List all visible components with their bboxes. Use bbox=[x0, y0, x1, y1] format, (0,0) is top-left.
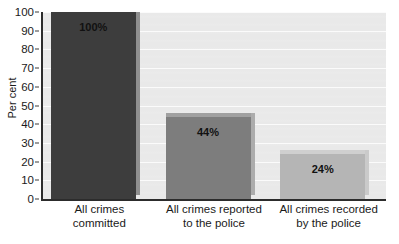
y-axis-tick-label: 10 bbox=[21, 174, 34, 186]
bar-body bbox=[280, 154, 365, 199]
y-axis-tick-label: 30 bbox=[21, 137, 34, 149]
y-axis-tick-mark bbox=[35, 105, 39, 106]
bar-shadow bbox=[365, 150, 369, 195]
y-axis-tick-label: 80 bbox=[21, 43, 34, 55]
bar-value-label: 100% bbox=[51, 21, 136, 33]
y-axis-tick-label: 60 bbox=[21, 81, 34, 93]
bar: 44% bbox=[166, 117, 251, 199]
y-axis-tick-mark bbox=[35, 49, 39, 50]
y-axis-tick-mark bbox=[35, 199, 39, 200]
x-axis-category-label-line: committed bbox=[42, 217, 157, 231]
y-axis-ticks: 1009080706050403020100 bbox=[0, 0, 42, 244]
bar-shadow bbox=[251, 113, 255, 195]
bar-value-label: 44% bbox=[166, 126, 251, 138]
y-axis-tick-label: 100 bbox=[15, 6, 34, 18]
bar: 24% bbox=[280, 154, 365, 199]
x-axis-category-label: All crimescommitted bbox=[42, 203, 157, 230]
bar-shadow bbox=[136, 12, 140, 195]
x-axis-category-label-line: All crimes reported bbox=[157, 203, 272, 217]
y-axis-tick-label: 70 bbox=[21, 62, 34, 74]
x-axis-category-labels: All crimescommittedAll crimes reportedto… bbox=[42, 203, 386, 241]
x-axis-category-label-line: to the police bbox=[157, 217, 272, 231]
y-axis-tick-label: 0 bbox=[28, 193, 34, 205]
y-axis-tick-label: 90 bbox=[21, 25, 34, 37]
x-axis-category-label-line: All crimes recorded bbox=[271, 203, 386, 217]
x-axis-category-label-line: by the police bbox=[271, 217, 386, 231]
y-axis-tick-mark bbox=[35, 30, 39, 31]
x-axis-category-label-line: All crimes bbox=[42, 203, 157, 217]
y-axis-tick-label: 50 bbox=[21, 100, 34, 112]
x-axis-line bbox=[41, 199, 386, 201]
bar-body bbox=[51, 12, 136, 199]
y-axis-tick-mark bbox=[35, 68, 39, 69]
y-axis-line bbox=[41, 12, 43, 200]
y-axis-tick-mark bbox=[35, 86, 39, 87]
y-axis-tick-mark bbox=[35, 142, 39, 143]
y-axis-tick-mark bbox=[35, 161, 39, 162]
x-axis-category-label: All crimes recordedby the police bbox=[271, 203, 386, 230]
x-axis-category-label: All crimes reportedto the police bbox=[157, 203, 272, 230]
bar-top-highlight bbox=[280, 150, 365, 154]
y-axis-tick-label: 20 bbox=[21, 156, 34, 168]
bar-value-label: 24% bbox=[280, 163, 365, 175]
plot-area: 100%44%24% bbox=[42, 12, 386, 199]
bar-chart: Per cent 1009080706050403020100 100%44%2… bbox=[0, 0, 399, 244]
bar: 100% bbox=[51, 12, 136, 199]
y-axis-tick-mark bbox=[35, 180, 39, 181]
y-axis-tick-label: 40 bbox=[21, 118, 34, 130]
y-axis-tick-mark bbox=[35, 12, 39, 13]
y-axis-tick-mark bbox=[35, 124, 39, 125]
bar-top-highlight bbox=[166, 113, 251, 117]
